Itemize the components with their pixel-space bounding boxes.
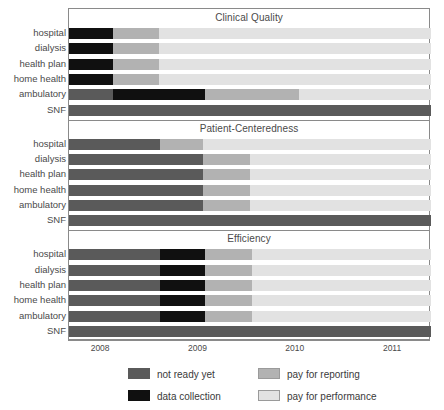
bar-segment-not-ready <box>69 154 203 165</box>
bar-segment-data-coll <box>160 280 205 291</box>
bar-segment-pay-report <box>160 139 203 150</box>
bar-segment-data-coll <box>69 43 113 54</box>
chart-legend: not ready yetdata collectionpay for repo… <box>0 362 444 408</box>
bar-segment-data-coll <box>160 249 205 260</box>
bar-segment-not-ready <box>69 105 431 116</box>
category-label-health-plan: health plan <box>0 58 66 69</box>
legend-item-not-ready[interactable]: not ready yet <box>128 366 215 380</box>
bar-row <box>69 295 431 306</box>
bar-row <box>69 154 431 165</box>
bar-segment-not-ready <box>69 249 160 260</box>
plot-area: Clinical QualityPatient-CenterednessEffi… <box>68 8 430 340</box>
bar-row <box>69 200 431 211</box>
bar-segment-pay-report <box>205 265 252 276</box>
panel-title: Patient-Centeredness <box>69 120 429 138</box>
bar-row <box>69 249 431 260</box>
bar-row <box>69 311 431 322</box>
x-tick-label-2011: 2011 <box>383 343 401 353</box>
x-tick-label-2009: 2009 <box>188 343 207 353</box>
category-label-home-health: home health <box>0 73 66 84</box>
bar-row <box>69 139 431 150</box>
legend-item-pay-perform[interactable]: pay for performance <box>258 388 377 402</box>
panel-title: Clinical Quality <box>69 9 429 27</box>
bar-segment-pay-report <box>205 89 298 100</box>
bar-segment-pay-perform <box>159 28 431 39</box>
bar-segment-pay-report <box>203 200 250 211</box>
bar-segment-pay-perform <box>250 185 431 196</box>
bar-segment-not-ready <box>69 311 160 322</box>
bar-row <box>69 169 431 180</box>
bar-segment-pay-perform <box>252 249 431 260</box>
bar-segment-not-ready <box>69 215 431 226</box>
x-axis-line <box>68 340 430 341</box>
bar-segment-not-ready <box>69 139 160 150</box>
bar-segment-pay-perform <box>159 74 431 85</box>
bar-segment-pay-perform <box>203 139 431 150</box>
bar-segment-pay-report <box>205 295 252 306</box>
bar-segment-data-coll <box>160 311 205 322</box>
legend-label: pay for performance <box>287 391 377 402</box>
legend-label: not ready yet <box>157 369 215 380</box>
bar-row <box>69 74 431 85</box>
legend-item-pay-report[interactable]: pay for reporting <box>258 366 360 380</box>
category-label-ambulatory: ambulatory <box>0 310 66 321</box>
legend-swatch-pay-perform <box>258 390 280 401</box>
bar-segment-not-ready <box>69 169 203 180</box>
chart-container: Clinical QualityPatient-CenterednessEffi… <box>0 0 444 410</box>
category-label-home-health: home health <box>0 294 66 305</box>
bar-row <box>69 326 431 337</box>
bar-segment-pay-report <box>205 249 252 260</box>
bar-segment-not-ready <box>69 326 431 337</box>
category-label-hospital: hospital <box>0 248 66 259</box>
bar-segment-data-coll <box>160 295 205 306</box>
bar-segment-pay-perform <box>250 200 431 211</box>
bar-segment-data-coll <box>69 28 113 39</box>
bar-segment-pay-report <box>113 28 159 39</box>
bar-segment-pay-perform <box>252 265 431 276</box>
bar-row <box>69 89 431 100</box>
panel-efficiency: Efficiency <box>69 230 429 341</box>
bar-segment-pay-perform <box>299 89 431 100</box>
bar-segment-pay-perform <box>159 59 431 70</box>
bar-segment-pay-report <box>113 74 159 85</box>
bar-row <box>69 185 431 196</box>
category-label-dialysis: dialysis <box>0 42 66 53</box>
x-tick-label-2010: 2010 <box>285 343 304 353</box>
bar-segment-data-coll <box>69 59 113 70</box>
bar-segment-pay-report <box>203 169 250 180</box>
bar-row <box>69 105 431 116</box>
bar-segment-pay-perform <box>252 295 431 306</box>
bar-segment-pay-perform <box>252 311 431 322</box>
category-label-hospital: hospital <box>0 138 66 149</box>
category-label-health-plan: health plan <box>0 279 66 290</box>
panel-patient-centeredness: Patient-Centeredness <box>69 120 429 231</box>
category-label-hospital: hospital <box>0 27 66 38</box>
bar-segment-pay-report <box>203 154 250 165</box>
panel-clinical-quality: Clinical Quality <box>69 9 429 120</box>
bar-segment-pay-perform <box>252 280 431 291</box>
category-label-health-plan: health plan <box>0 168 66 179</box>
bar-segment-pay-perform <box>159 43 431 54</box>
bar-row <box>69 28 431 39</box>
bar-segment-not-ready <box>69 280 160 291</box>
bar-segment-data-coll <box>160 265 205 276</box>
panel-title: Efficiency <box>69 230 429 248</box>
category-label-home-health: home health <box>0 184 66 195</box>
bar-segment-not-ready <box>69 200 203 211</box>
category-label-dialysis: dialysis <box>0 264 66 275</box>
legend-swatch-data-coll <box>128 390 150 401</box>
bar-segment-pay-perform <box>250 169 431 180</box>
category-label-SNF: SNF <box>0 214 66 225</box>
bar-segment-data-coll <box>69 74 113 85</box>
category-label-ambulatory: ambulatory <box>0 88 66 99</box>
bar-row <box>69 265 431 276</box>
category-label-ambulatory: ambulatory <box>0 199 66 210</box>
bar-row <box>69 280 431 291</box>
category-label-SNF: SNF <box>0 325 66 336</box>
legend-item-data-coll[interactable]: data collection <box>128 388 221 402</box>
legend-swatch-pay-report <box>258 368 280 379</box>
category-label-SNF: SNF <box>0 104 66 115</box>
bar-segment-not-ready <box>69 185 203 196</box>
bar-segment-pay-report <box>113 43 159 54</box>
bar-segment-pay-report <box>203 185 250 196</box>
